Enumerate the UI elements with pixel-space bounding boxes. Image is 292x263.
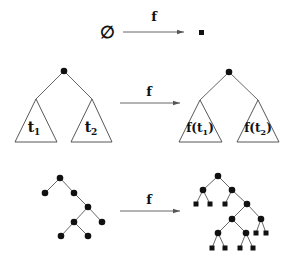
leaf-square-icon: [223, 202, 228, 207]
input-tree-schema: t1 t2: [15, 68, 112, 142]
leaf-square-icon: [223, 246, 228, 251]
label-f-t1: f(t1): [186, 121, 214, 137]
tree-node: [215, 230, 222, 237]
leaf-square-icon: [264, 231, 269, 236]
row-recursive-case: t1 t2 f f(t1) f(t2): [15, 68, 279, 142]
tree-node: [244, 201, 251, 208]
leaf-square-icon: [254, 231, 259, 236]
leaf-square-icon: [238, 246, 243, 251]
example-input-tree: [42, 175, 106, 240]
arrow-label-f-2: f: [146, 84, 153, 99]
tree-node: [85, 204, 92, 211]
tree-node: [215, 173, 222, 180]
output-tree-schema: f(t1) f(t2): [179, 69, 279, 142]
leaf-square-icon: [210, 246, 215, 251]
tree-node: [71, 190, 78, 197]
tree-node: [229, 216, 236, 223]
recursive-tree-function-diagram: ∅ f t1 t2 f: [0, 0, 292, 263]
tree-node: [57, 175, 64, 182]
tree-node: [58, 233, 65, 240]
leaf-square-icon: [199, 30, 204, 35]
tree-node: [229, 187, 236, 194]
row-example: f: [42, 173, 269, 251]
diagram-svg: ∅ f t1 t2 f: [0, 0, 292, 263]
root-node: [61, 68, 68, 75]
root-node: [226, 69, 233, 76]
leaf-square-icon: [208, 202, 213, 207]
arrow-label-f-1: f: [151, 9, 158, 24]
tree-node: [42, 190, 49, 197]
tree-node: [243, 230, 250, 237]
example-output-tree: [194, 173, 269, 251]
leaf-square-icon: [194, 202, 199, 207]
tree-node: [258, 216, 265, 223]
tree-node: [85, 233, 92, 240]
label-f-t2: f(t2): [244, 121, 272, 137]
empty-set-symbol: ∅: [100, 22, 115, 42]
leaf-square-icon: [251, 246, 256, 251]
tree-node: [99, 219, 106, 226]
row-empty-case: ∅ f: [100, 9, 205, 42]
arrow-label-f-3: f: [146, 192, 153, 207]
tree-node: [71, 219, 78, 226]
tree-node: [200, 187, 207, 194]
